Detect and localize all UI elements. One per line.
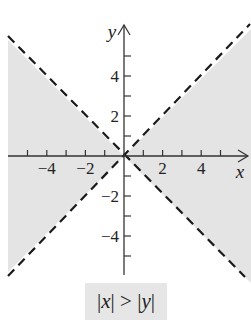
x-tick-label-2: 2: [158, 159, 167, 178]
y-tick-label-neg2: −2: [101, 187, 119, 206]
inequality-caption: |x| > |y|: [85, 283, 167, 320]
caption-operator: >: [115, 289, 137, 314]
inequality-graph: −4 −2 2 4 x 4 2 −2 −4 y: [0, 0, 251, 320]
y-tick-label-2: 2: [111, 107, 120, 126]
caption-x: x: [101, 289, 110, 314]
x-axis-label: x: [235, 161, 245, 182]
caption-abs-bar: |: [151, 289, 155, 314]
y-axis-label: y: [106, 21, 117, 42]
x-tick-label-neg4: −4: [38, 159, 57, 178]
y-tick-label-neg4: −4: [101, 227, 120, 246]
x-tick-label-neg2: −2: [76, 159, 94, 178]
caption-y: y: [141, 289, 150, 314]
y-tick-label-4: 4: [111, 67, 120, 86]
x-tick-label-4: 4: [197, 159, 206, 178]
